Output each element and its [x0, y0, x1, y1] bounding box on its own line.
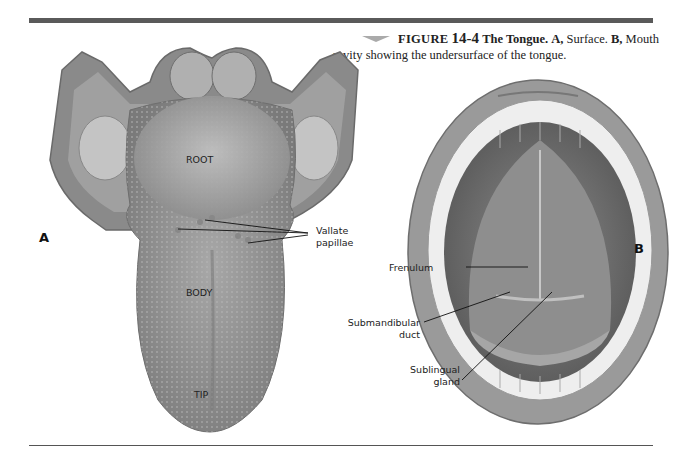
label-vallate: Vallate: [316, 225, 348, 236]
label-sublingual: Sublingual: [380, 364, 460, 375]
tongue-surface-drawing: [50, 48, 358, 432]
label-papillae: papillae: [316, 237, 353, 248]
label-body: BODY: [186, 287, 212, 298]
label-gland: gland: [380, 376, 460, 387]
label-tip: TIP: [194, 389, 208, 400]
bottom-rule: [29, 445, 653, 446]
panel-a-label: A: [39, 230, 49, 245]
label-submandibular: Submandibular: [340, 317, 420, 328]
panel-b-label: B: [634, 241, 644, 256]
label-duct: duct: [340, 329, 420, 340]
label-root: ROOT: [186, 154, 213, 165]
label-frenulum: Frenulum: [389, 262, 433, 273]
